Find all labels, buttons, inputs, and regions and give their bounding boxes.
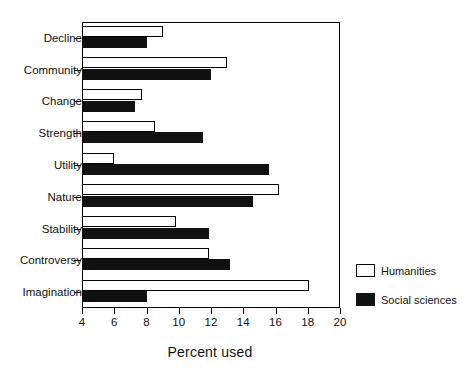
x-axis-tick-label-6: 6 (111, 316, 117, 329)
bar-strength-social-sciences (82, 132, 203, 143)
bar-nature-social-sciences (82, 196, 253, 207)
y-axis-label-strength: Strength (4, 127, 82, 139)
y-axis-label-decline: Decline (4, 32, 82, 44)
bar-decline-social-sciences (82, 37, 147, 48)
y-axis-label-utility: Utility (4, 159, 82, 171)
bar-group-utility (82, 149, 340, 181)
x-axis-tick-6 (114, 308, 115, 314)
bar-controversy-social-sciences (82, 259, 230, 270)
bar-strength-humanities (82, 121, 155, 132)
legend: Humanities Social sciences (356, 264, 466, 322)
bar-change-humanities (82, 89, 142, 100)
x-axis-tick-20 (340, 308, 341, 314)
bar-group-change (82, 86, 340, 118)
x-axis-tick-label-16: 16 (269, 316, 282, 329)
bar-chart-figure: DeclineCommunityChangeStrengthUtilityNat… (0, 0, 467, 380)
bar-rows-container (82, 22, 340, 308)
bar-utility-humanities (82, 153, 114, 164)
x-axis-tick-12 (211, 308, 212, 314)
bar-utility-social-sciences (82, 164, 269, 175)
legend-label-social-sciences: Social sciences (381, 294, 457, 306)
y-axis-category-labels: DeclineCommunityChangeStrengthUtilityNat… (0, 22, 82, 308)
open-square-swatch-icon (356, 264, 375, 277)
bar-group-stability (82, 213, 340, 245)
x-axis-tick-16 (276, 308, 277, 314)
y-axis-label-change: Change (4, 95, 82, 107)
x-axis-tick-label-10: 10 (172, 316, 185, 329)
bar-change-social-sciences (82, 101, 135, 112)
bar-nature-humanities (82, 184, 279, 195)
bar-community-social-sciences (82, 69, 211, 80)
x-axis: 468101214161820 (82, 308, 340, 338)
bar-controversy-humanities (82, 248, 209, 259)
y-axis-label-imagination: Imagination (4, 286, 82, 298)
x-axis-tick-label-20: 20 (334, 316, 347, 329)
bar-group-imagination (82, 276, 340, 308)
y-axis-label-stability: Stability (4, 223, 82, 235)
bar-community-humanities (82, 57, 227, 68)
bar-group-controversy (82, 244, 340, 276)
x-axis-tick-8 (147, 308, 148, 314)
y-axis-label-community: Community (4, 64, 82, 76)
x-axis-tick-14 (243, 308, 244, 314)
x-axis-tick-18 (308, 308, 309, 314)
bar-decline-humanities (82, 26, 163, 37)
x-axis-tick-label-18: 18 (301, 316, 314, 329)
bar-imagination-humanities (82, 280, 309, 291)
x-axis-tick-4 (82, 308, 83, 314)
bar-group-nature (82, 181, 340, 213)
filled-square-swatch-icon (356, 293, 375, 306)
legend-item-social-sciences: Social sciences (356, 293, 466, 306)
bar-imagination-social-sciences (82, 291, 147, 302)
bar-group-strength (82, 117, 340, 149)
bar-group-community (82, 54, 340, 86)
bar-stability-social-sciences (82, 228, 209, 239)
bar-group-decline (82, 22, 340, 54)
x-axis-tick-label-4: 4 (79, 316, 85, 329)
y-axis-label-nature: Nature (4, 191, 82, 203)
legend-label-humanities: Humanities (381, 265, 436, 277)
x-axis-tick-label-8: 8 (143, 316, 149, 329)
bar-stability-humanities (82, 216, 176, 227)
y-axis-label-controversy: Controversy (4, 254, 82, 266)
x-axis-tick-10 (179, 308, 180, 314)
x-axis-title: Percent used (0, 344, 420, 360)
x-axis-tick-label-14: 14 (237, 316, 250, 329)
x-axis-tick-label-12: 12 (205, 316, 218, 329)
legend-item-humanities: Humanities (356, 264, 466, 277)
